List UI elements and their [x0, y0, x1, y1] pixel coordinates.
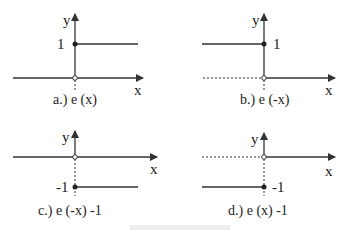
level-label: -1	[56, 179, 69, 195]
step-function-diagram: y x 1 a.) e (x) y x 1 b.) e (-x) y x -1 …	[0, 0, 345, 232]
level-label: 1	[273, 36, 281, 52]
open-point	[73, 76, 78, 81]
y-label: y	[62, 129, 70, 145]
panel-c: y x -1 c.) e (-x) -1	[13, 129, 158, 219]
x-label: x	[325, 82, 333, 98]
caption: d.) e (x) -1	[228, 203, 288, 219]
x-label: x	[150, 161, 158, 177]
level-label: 1	[57, 36, 65, 52]
x-label: x	[325, 163, 333, 179]
filled-point	[262, 42, 267, 47]
filled-point	[73, 42, 78, 47]
y-label: y	[252, 12, 260, 28]
filled-point	[262, 185, 267, 190]
level-label: -1	[272, 179, 285, 195]
caption: b.) e (-x)	[240, 92, 290, 108]
caption: c.) e (-x) -1	[38, 203, 102, 219]
open-point	[73, 155, 78, 160]
y-label: y	[251, 131, 259, 147]
open-point	[262, 76, 267, 81]
x-label: x	[134, 82, 142, 98]
panel-a: y x 1 a.) e (x)	[13, 12, 143, 108]
open-point	[262, 155, 267, 160]
caption: a.) e (x)	[53, 92, 97, 108]
faint-caption-smudge	[130, 225, 230, 230]
panel-b: y x 1 b.) e (-x)	[202, 12, 335, 108]
y-label: y	[63, 12, 71, 28]
panel-d: y x -1 d.) e (x) -1	[202, 131, 335, 219]
filled-point	[73, 185, 78, 190]
